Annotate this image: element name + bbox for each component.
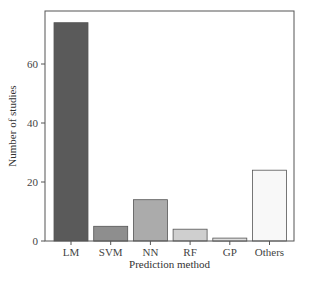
bar-others	[253, 170, 287, 241]
x-tick-label: NN	[142, 246, 158, 258]
bar-svm	[94, 226, 128, 241]
y-tick-label: 60	[27, 58, 39, 70]
x-tick-label: GP	[223, 246, 237, 258]
x-tick-label: SVM	[99, 246, 123, 258]
x-tick-label: RF	[183, 246, 196, 258]
y-axis-ticks: 0204060	[27, 58, 45, 247]
y-tick-label: 20	[27, 176, 39, 188]
x-tick-label: LM	[63, 246, 80, 258]
bar-nn	[133, 200, 167, 241]
y-axis-title: Number of studies	[6, 85, 18, 166]
bar-chart: 0204060 LMSVMNNRFGPOthers Prediction met…	[0, 0, 310, 285]
y-tick-label: 0	[33, 235, 39, 247]
bars-group	[54, 23, 287, 241]
y-tick-label: 40	[27, 117, 39, 129]
bar-rf	[173, 229, 207, 241]
x-axis-title: Prediction method	[129, 258, 210, 270]
x-axis-ticks: LMSVMNNRFGPOthers	[63, 241, 284, 258]
bar-lm	[54, 23, 88, 241]
x-tick-label: Others	[255, 246, 284, 258]
